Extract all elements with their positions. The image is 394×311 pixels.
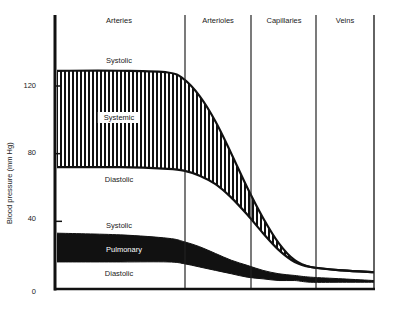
pulmonary-systolic-label: Systolic xyxy=(106,221,132,230)
blood-pressure-chart: Blood pressure (mm Hg) 120 80 40 0 Arter… xyxy=(0,0,394,311)
region-label-capillaries: Capillaries xyxy=(266,16,301,25)
region-label-arterioles: Arterioles xyxy=(202,16,234,25)
region-label-arteries: Arteries xyxy=(106,16,132,25)
y-tick-40: 40 xyxy=(14,214,36,223)
systemic-label: Systemic xyxy=(98,112,140,123)
y-tick-120: 120 xyxy=(14,81,36,90)
systemic-diastolic-label: Diastolic xyxy=(105,175,133,184)
pulmonary-label: Pulmonary xyxy=(106,245,142,254)
systemic-systolic-label: Systolic xyxy=(106,56,132,65)
plot-area xyxy=(0,0,394,311)
y-axis-label: Blood pressure (mm Hg) xyxy=(5,142,14,224)
region-label-veins: Veins xyxy=(336,16,354,25)
pulmonary-diastolic-label: Diastolic xyxy=(105,269,133,278)
y-tick-0: 0 xyxy=(14,287,36,296)
y-tick-80: 80 xyxy=(14,148,36,157)
